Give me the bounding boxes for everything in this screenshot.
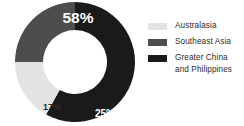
- slice-value-label-southeast-asia: 25%: [95, 108, 115, 119]
- legend-label-australasia: Australasia: [175, 20, 217, 32]
- legend: Australasia Southeast Asia Greater China…: [148, 20, 244, 80]
- legend-swatch-icon-southeast-asia: [148, 39, 167, 46]
- donut-chart: 58% 25% 17%: [0, 0, 140, 126]
- legend-swatch-icon-greater-china: [148, 55, 167, 62]
- legend-swatch-icon-australasia: [148, 23, 167, 30]
- legend-item-southeast-asia[interactable]: Southeast Asia: [148, 36, 244, 48]
- legend-label-southeast-asia: Southeast Asia: [175, 36, 231, 48]
- legend-item-australasia[interactable]: Australasia: [148, 20, 244, 32]
- legend-item-greater-china[interactable]: Greater China and Philippines: [148, 52, 244, 76]
- donut-chart-figure: 58% 25% 17% Australasia Southeast Asia G…: [0, 0, 244, 126]
- slice-value-label-australasia: 17%: [43, 102, 61, 112]
- slice-value-label-greater-china: 58%: [62, 9, 93, 26]
- donut-chart-svg: 58% 25% 17%: [0, 0, 140, 126]
- legend-label-greater-china: Greater China and Philippines: [175, 52, 232, 76]
